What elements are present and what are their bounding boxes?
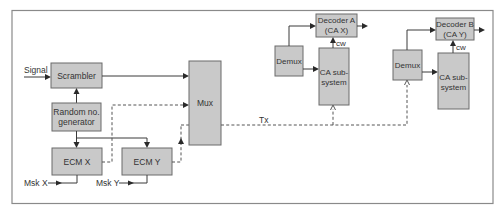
decoder-a-label-line2: (CA X) (325, 26, 349, 35)
scrambler-block: Scrambler (51, 63, 102, 88)
decoder-b-label-line2: (CA Y) (443, 30, 467, 39)
ca-a-label-line2: system (321, 78, 347, 87)
cw-b-label: cw (456, 43, 466, 52)
scrambler-label: Scrambler (57, 71, 96, 81)
mux-block: Mux (189, 61, 221, 145)
ca-subsystem-b-block: CA sub- system (438, 53, 469, 109)
demux-b-label: Demux (395, 61, 420, 70)
decoder-a-block: Decoder A (CA X) (316, 14, 357, 37)
decoder-a-label-line1: Decoder A (318, 16, 356, 25)
demux-b-block: Demux (393, 50, 422, 80)
cw-a-label: cw (336, 39, 346, 48)
demux-a-block: Demux (275, 46, 303, 76)
ecm-x-label: ECM X (64, 157, 91, 167)
rng-label-line1: Random no. (53, 107, 99, 117)
signal-input-label: Signal (24, 65, 48, 75)
mux-label: Mux (197, 98, 214, 108)
demux-a-label: Demux (276, 57, 301, 66)
msk-x-label: Msk X (24, 178, 48, 188)
ca-b-label-line2: system (441, 83, 467, 92)
msk-y-label: Msk Y (96, 178, 120, 188)
tx-label: Tx (259, 115, 269, 125)
ecm-x-block: ECM X (52, 148, 102, 175)
ca-b-label-line1: CA sub- (439, 73, 468, 82)
ecm-y-block: ECM Y (122, 148, 172, 175)
decoder-b-label-line1: Decoder B (436, 20, 474, 29)
ca-system-diagram: Signal Scrambler Random no. generator EC… (0, 0, 504, 213)
decoder-b-block: Decoder B (CA Y) (436, 18, 474, 40)
ecm-y-label: ECM Y (134, 157, 161, 167)
random-number-generator-block: Random no. generator (52, 103, 101, 131)
ca-subsystem-a-block: CA sub- system (319, 48, 349, 105)
rng-label-line2: generator (58, 117, 95, 127)
ca-a-label-line1: CA sub- (320, 68, 349, 77)
